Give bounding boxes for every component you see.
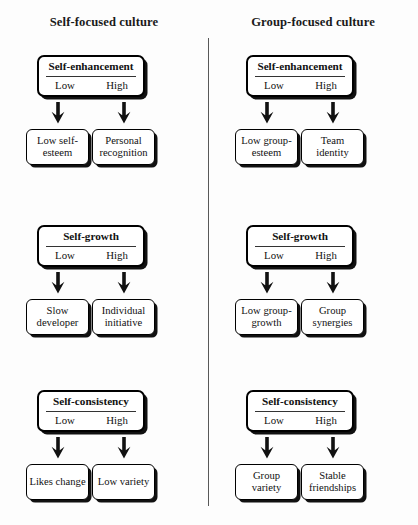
level-label-low: Low <box>39 249 91 261</box>
arrow-down-icon-high <box>322 102 344 127</box>
arrow-down-icon-high <box>113 102 135 127</box>
construct-title: Self-enhancement <box>39 60 143 72</box>
outcome-label: Low group-growth <box>236 305 297 330</box>
construct-divider-rule <box>255 246 345 247</box>
outcome-label: Slow developer <box>27 305 88 330</box>
outcome-box-low: Low self-esteem <box>26 129 89 165</box>
construct-title: Self-consistency <box>39 395 143 407</box>
level-label-high: High <box>300 79 352 91</box>
construct-title: Self-growth <box>248 230 352 242</box>
outcome-box-high: Low variety <box>92 464 155 500</box>
construct-title: Self-consistency <box>248 395 352 407</box>
outcome-label: Team identity <box>302 135 363 160</box>
outcome-label: Group synergies <box>302 305 363 330</box>
arrow-down-icon-low <box>256 102 278 127</box>
construct-box-self-enhancement-left: Self-enhancement Low High <box>37 55 145 97</box>
arrow-down-icon-high <box>322 272 344 297</box>
outcome-label: Likes change <box>27 476 87 488</box>
arrow-down-icon-low <box>47 437 69 462</box>
level-label-high: High <box>300 249 352 261</box>
construct-divider-rule <box>46 411 136 412</box>
column-header-self-focused: Self-focused culture <box>0 15 208 30</box>
level-label-low: Low <box>248 249 300 261</box>
outcome-box-high: Stable friendships <box>301 464 364 500</box>
construct-divider-rule <box>255 76 345 77</box>
arrow-down-icon-low <box>256 272 278 297</box>
outcome-box-low: Group variety <box>235 464 298 500</box>
outcome-label: Group variety <box>236 470 297 495</box>
outcome-label: Stable friendships <box>302 470 363 495</box>
construct-box-self-enhancement-right: Self-enhancement Low High <box>246 55 354 97</box>
outcome-box-low: Slow developer <box>26 299 89 335</box>
level-label-low: Low <box>39 79 91 91</box>
arrow-down-icon-high <box>322 437 344 462</box>
arrow-down-icon-low <box>256 437 278 462</box>
level-label-low: Low <box>39 414 91 426</box>
construct-divider-rule <box>255 411 345 412</box>
outcome-box-low: Likes change <box>26 464 89 500</box>
level-label-high: High <box>91 79 143 91</box>
construct-divider-rule <box>46 76 136 77</box>
arrow-down-icon-high <box>113 437 135 462</box>
outcome-label: Low variety <box>96 476 151 488</box>
outcome-box-low: Low group-esteem <box>235 129 298 165</box>
arrow-down-icon-low <box>47 102 69 127</box>
level-label-low: Low <box>248 79 300 91</box>
outcome-label: Low self-esteem <box>27 135 88 160</box>
construct-title: Self-growth <box>39 230 143 242</box>
outcome-box-high: Group synergies <box>301 299 364 335</box>
outcome-label: Low group-esteem <box>236 135 297 160</box>
construct-title: Self-enhancement <box>248 60 352 72</box>
outcome-box-low: Low group-growth <box>235 299 298 335</box>
construct-divider-rule <box>46 246 136 247</box>
center-divider <box>208 38 209 506</box>
arrow-down-icon-low <box>47 272 69 297</box>
outcome-label: Personal recognition <box>93 135 154 160</box>
outcome-label: Individual initiative <box>93 305 154 330</box>
outcome-box-high: Team identity <box>301 129 364 165</box>
diagram-canvas: Self-focused culture Group-focused cultu… <box>0 0 418 525</box>
level-label-high: High <box>91 249 143 261</box>
level-label-high: High <box>300 414 352 426</box>
level-label-low: Low <box>248 414 300 426</box>
column-header-group-focused: Group-focused culture <box>209 15 417 30</box>
construct-box-self-consistency-right: Self-consistency Low High <box>246 390 354 432</box>
outcome-box-high: Individual initiative <box>92 299 155 335</box>
construct-box-self-growth-left: Self-growth Low High <box>37 225 145 267</box>
construct-box-self-consistency-left: Self-consistency Low High <box>37 390 145 432</box>
outcome-box-high: Personal recognition <box>92 129 155 165</box>
level-label-high: High <box>91 414 143 426</box>
arrow-down-icon-high <box>113 272 135 297</box>
construct-box-self-growth-right: Self-growth Low High <box>246 225 354 267</box>
